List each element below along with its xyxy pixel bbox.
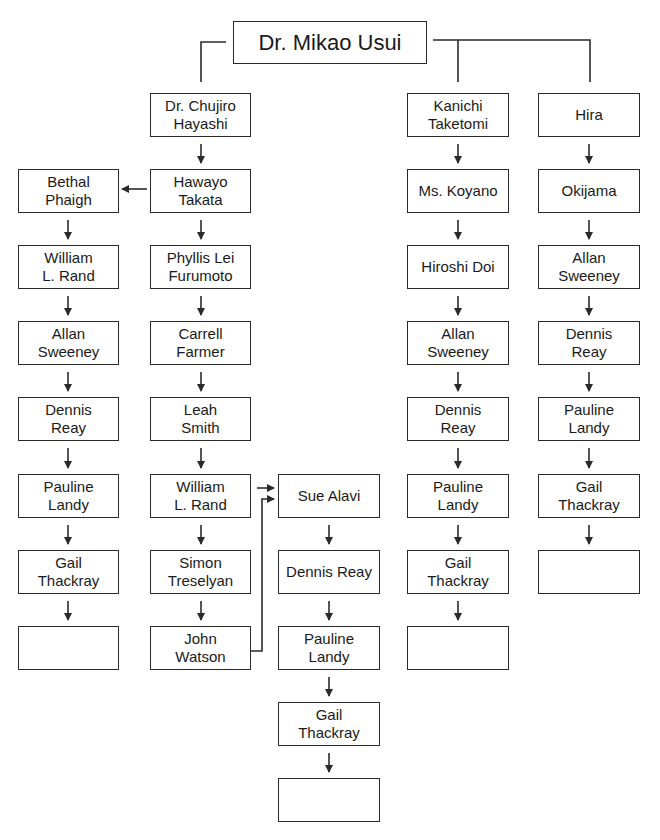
node-rand-b: William L. Rand xyxy=(150,474,251,518)
node-root: Dr. Mikao Usui xyxy=(233,21,427,64)
node-watson: John Watson xyxy=(150,626,251,670)
node-koyano: Ms. Koyano xyxy=(407,169,509,213)
node-sweeney-a: Allan Sweeney xyxy=(18,321,119,365)
node-reay-c: Dennis Reay xyxy=(278,550,380,594)
node-blank-d xyxy=(407,626,509,670)
node-reay-d: Dennis Reay xyxy=(407,397,509,441)
node-farmer: Carrell Farmer xyxy=(150,321,251,365)
node-thackray-e: Gail Thackray xyxy=(538,474,640,518)
node-smith: Leah Smith xyxy=(150,397,251,441)
node-hayashi: Dr. Chujiro Hayashi xyxy=(150,93,251,137)
node-okijama: Okijama xyxy=(538,169,640,213)
node-takata: Hawayo Takata xyxy=(150,169,251,213)
node-phaigh: Bethal Phaigh xyxy=(18,169,119,213)
node-alavi: Sue Alavi xyxy=(278,474,380,518)
node-blank-e xyxy=(538,550,640,594)
node-blank-a xyxy=(18,626,119,670)
node-thackray-d: Gail Thackray xyxy=(407,550,509,594)
node-reay-a: Dennis Reay xyxy=(18,397,119,441)
node-rand-a: William L. Rand xyxy=(18,245,119,289)
node-treselyan: Simon Treselyan xyxy=(150,550,251,594)
node-sweeney-e: Allan Sweeney xyxy=(538,245,640,289)
node-sweeney-d: Allan Sweeney xyxy=(407,321,509,365)
node-landy-a: Pauline Landy xyxy=(18,474,119,518)
node-landy-c: Pauline Landy xyxy=(278,626,380,670)
node-thackray-a: Gail Thackray xyxy=(18,550,119,594)
node-landy-d: Pauline Landy xyxy=(407,474,509,518)
node-reay-e: Dennis Reay xyxy=(538,321,640,365)
node-furumoto: Phyllis Lei Furumoto xyxy=(150,245,251,289)
node-thackray-c: Gail Thackray xyxy=(278,702,380,746)
node-landy-e: Pauline Landy xyxy=(538,397,640,441)
node-hira: Hira xyxy=(538,93,640,137)
node-taketomi: Kanichi Taketomi xyxy=(407,93,509,137)
node-blank-c xyxy=(278,778,380,822)
node-doi: Hiroshi Doi xyxy=(407,245,509,289)
